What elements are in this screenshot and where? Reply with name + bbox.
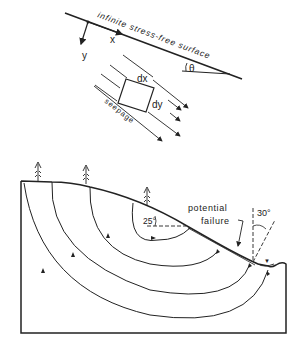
tree-icon xyxy=(83,165,89,184)
tree-icon xyxy=(144,187,150,206)
potential-failure-plane xyxy=(188,228,255,265)
infinite-slope-figure: infinite stress-free surface x y θ dx dy… xyxy=(65,10,242,141)
theta-arc xyxy=(186,63,187,71)
slope-angle-label: 25° xyxy=(143,216,156,226)
theta-label: θ xyxy=(189,63,195,74)
water-table-symbol: ▼ xyxy=(264,258,270,264)
failure-label-line1: potential xyxy=(188,203,227,213)
seepage-angle-arc xyxy=(253,225,266,229)
x-axis-label: x xyxy=(110,34,115,45)
seepage-direction-dashed-line xyxy=(253,220,275,262)
failure-label-line2: failure xyxy=(201,216,230,226)
slope-cross-section-figure: ▼ 25° potential failure 3 xyxy=(21,162,286,333)
tree-icon xyxy=(35,162,41,181)
failure-pointer-arrow xyxy=(238,220,243,246)
y-axis-arrow xyxy=(81,22,88,44)
seepage-diagram: infinite stress-free surface x y θ dx dy… xyxy=(0,0,302,351)
seepage-label: seepage xyxy=(103,96,137,125)
seepage-angle-label: 30° xyxy=(257,208,271,218)
dy-label: dy xyxy=(152,99,163,110)
ground-profile xyxy=(21,181,286,333)
dx-label: dx xyxy=(137,73,148,84)
y-axis-label: y xyxy=(82,50,87,61)
